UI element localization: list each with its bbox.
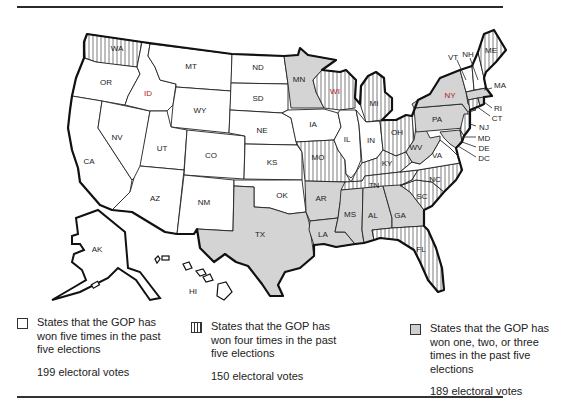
label-GA: GA: [394, 211, 406, 220]
legend-line: five elections: [211, 347, 336, 361]
label-NH: NH: [462, 50, 474, 59]
electoral-votes: 199 electoral votes: [37, 366, 129, 380]
bottom-rule: [17, 396, 503, 398]
label-CA: CA: [83, 157, 95, 166]
label-WA: WA: [111, 44, 124, 53]
legend-line: times in the past five: [430, 349, 549, 363]
label-RI: RI: [494, 104, 502, 113]
state-AK: [52, 210, 160, 300]
label-MS: MS: [344, 210, 356, 219]
label-WI: WI: [330, 87, 340, 96]
legend-line: won four times in the past: [211, 334, 336, 348]
label-DE: DE: [478, 144, 489, 153]
label-ME: ME: [485, 46, 497, 55]
legend-line: States that the GOP has: [430, 322, 549, 336]
label-IA: IA: [309, 120, 317, 129]
label-NM: NM: [198, 198, 211, 207]
label-AR: AR: [315, 194, 326, 203]
label-AL: AL: [368, 211, 378, 220]
label-AK: AK: [92, 245, 103, 254]
state-FL: [372, 226, 444, 292]
label-SD: SD: [252, 94, 263, 103]
label-KY: KY: [382, 159, 393, 168]
legend-line: five elections: [37, 343, 161, 357]
label-NY: NY: [444, 91, 456, 100]
label-IL: IL: [344, 135, 351, 144]
label-NJ: NJ: [479, 123, 489, 132]
label-DC: DC: [478, 154, 490, 163]
label-CT: CT: [492, 114, 503, 123]
label-TX: TX: [255, 230, 266, 239]
electoral-votes: 150 electoral votes: [211, 370, 303, 384]
label-LA: LA: [318, 230, 328, 239]
legend-text: States that the GOP has won five times i…: [37, 316, 161, 357]
label-CO: CO: [205, 151, 217, 160]
label-NV: NV: [111, 133, 123, 142]
label-NE: NE: [256, 126, 267, 135]
white-swatch-icon: [17, 318, 28, 329]
label-MO: MO: [312, 153, 325, 162]
label-MN: MN: [293, 75, 306, 84]
legend-line: States that the GOP has: [37, 316, 161, 330]
legend-text: States that the GOP has won four times i…: [211, 320, 336, 361]
legend-text: States that the GOP has won one, two, or…: [430, 322, 549, 376]
label-MD: MD: [478, 134, 491, 143]
label-IN: IN: [367, 136, 375, 145]
label-FL: FL: [416, 245, 426, 254]
label-OR: OR: [100, 78, 112, 87]
legend-line: won one, two, or three: [430, 336, 549, 350]
label-MT: MT: [185, 62, 197, 71]
label-OH: OH: [391, 128, 403, 137]
label-UT: UT: [157, 144, 168, 153]
label-NC: NC: [429, 175, 441, 184]
label-HI: HI: [189, 287, 197, 296]
label-AZ: AZ: [150, 194, 160, 203]
label-SC: SC: [416, 192, 427, 201]
label-MI: MI: [370, 99, 379, 108]
label-OK: OK: [276, 191, 288, 200]
legend-line: won five times in the past: [37, 330, 161, 344]
label-MA: MA: [494, 81, 507, 90]
label-TN: TN: [369, 181, 380, 190]
label-PA: PA: [432, 115, 443, 124]
hatched-swatch-icon: [191, 322, 202, 333]
label-WY: WY: [194, 106, 208, 115]
label-VA: VA: [432, 151, 443, 160]
label-VT: VT: [448, 53, 458, 62]
label-WV: WV: [410, 143, 424, 152]
gray-swatch-icon: [410, 324, 421, 335]
legend-line: elections: [430, 363, 549, 377]
label-ID: ID: [144, 89, 152, 98]
label-KS: KS: [267, 158, 278, 167]
label-ND: ND: [252, 63, 264, 72]
legend-line: States that the GOP has: [211, 320, 336, 334]
